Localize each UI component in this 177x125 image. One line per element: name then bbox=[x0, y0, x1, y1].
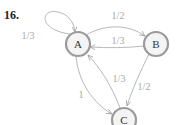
node-c-label: C bbox=[120, 114, 127, 125]
node-a: A bbox=[66, 32, 90, 56]
edge-label-a-c: 1 bbox=[79, 89, 84, 100]
edge-a-to-a bbox=[45, 12, 75, 34]
edge-label-c-a: 1/3 bbox=[113, 73, 126, 84]
edge-label-b-a: 1/3 bbox=[112, 35, 125, 46]
edge-label-b-c: 1/2 bbox=[138, 81, 151, 92]
state-diagram: 1/3 1/2 1/3 1 1/3 1/2 A B C bbox=[0, 0, 177, 125]
node-b-label: B bbox=[152, 38, 159, 50]
edge-b-to-a bbox=[90, 46, 144, 48]
edge-a-to-c bbox=[76, 56, 112, 114]
edge-label-a-a: 1/3 bbox=[22, 30, 35, 41]
node-c: C bbox=[112, 108, 136, 125]
node-b: B bbox=[144, 32, 168, 56]
edge-label-a-b: 1/2 bbox=[112, 10, 125, 21]
node-a-label: A bbox=[74, 38, 82, 50]
